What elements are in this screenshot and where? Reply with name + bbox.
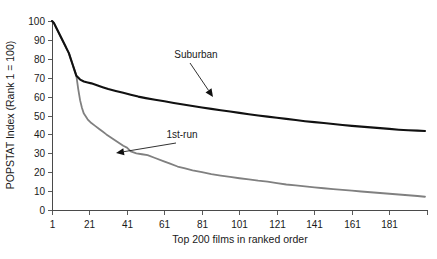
y-tick-label: 100 xyxy=(28,16,45,27)
x-tick-label: 161 xyxy=(344,219,361,230)
x-axis-title: Top 200 films in ranked order xyxy=(172,233,308,245)
y-tick-label: 30 xyxy=(34,148,46,159)
x-tick-label: 41 xyxy=(122,219,134,230)
x-tick-label: 181 xyxy=(381,219,398,230)
y-tick-label: 10 xyxy=(34,186,46,197)
x-tick-label: 101 xyxy=(231,219,248,230)
popstat-index-line-chart: 0102030405060708090100 12141618110112114… xyxy=(0,0,437,259)
x-tick-label: 1 xyxy=(50,219,56,230)
x-tick-label: 141 xyxy=(306,219,323,230)
y-axis-title: POPSTAT Index (Rank 1 = 100) xyxy=(4,41,16,190)
y-tick-label: 0 xyxy=(39,205,45,216)
annotation-label-suburban: Suburban xyxy=(174,49,217,60)
x-tick-label: 61 xyxy=(159,219,171,230)
y-tick-label: 50 xyxy=(34,111,46,122)
x-tick-label: 81 xyxy=(197,219,209,230)
chart-background xyxy=(0,0,437,259)
y-tick-label: 90 xyxy=(34,35,46,46)
chart-figure: 0102030405060708090100 12141618110112114… xyxy=(0,0,437,259)
x-tick-label: 121 xyxy=(269,219,286,230)
y-tick-label: 80 xyxy=(34,54,46,65)
y-tick-label: 70 xyxy=(34,73,46,84)
y-tick-label: 20 xyxy=(34,167,46,178)
x-tick-label: 21 xyxy=(84,219,96,230)
y-tick-label: 40 xyxy=(34,129,46,140)
annotation-label-1st-run: 1st-run xyxy=(166,129,197,140)
y-tick-label: 60 xyxy=(34,92,46,103)
